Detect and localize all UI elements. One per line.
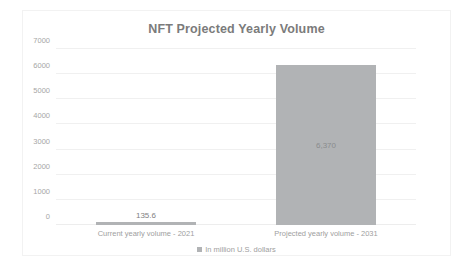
x-axis-tick-label: Projected yearly volume - 2031 [236,229,416,238]
legend-square-marker [197,247,202,252]
bar-value-label: 6,370 [276,140,377,149]
bar-slot: 6,370 [236,49,416,225]
chart-card: NFT Projected Yearly Volume 010002000300… [22,10,451,256]
y-axis-tick-label: 6000 [33,61,50,70]
x-axis-tick-label: Current yearly volume - 2021 [56,229,236,238]
y-axis-tick-label: 3000 [33,136,50,145]
bar[interactable]: 135.6 [96,222,197,225]
bar[interactable]: 6,370 [276,65,377,225]
x-axis-labels: Current yearly volume - 2021Projected ye… [56,229,416,243]
bar-slot: 135.6 [56,49,236,225]
bar-value-label: 135.6 [96,211,197,220]
chart-title: NFT Projected Yearly Volume [23,22,450,36]
y-axis-tick-label: 1000 [33,186,50,195]
plot-area: 01000200030004000500060007000 135.66,370 [56,49,416,225]
y-axis-tick-label: 7000 [33,36,50,45]
y-axis-tick-label: 2000 [33,161,50,170]
legend-label: In million U.S. dollars [205,245,275,254]
y-axis-tick-label: 4000 [33,111,50,120]
bar-series: 135.66,370 [56,49,416,225]
chart-legend: In million U.S. dollars [23,245,450,254]
y-axis-tick-label: 5000 [33,86,50,95]
y-axis-tick-label: 0 [46,212,50,221]
